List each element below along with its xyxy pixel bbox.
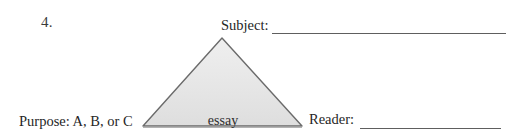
reader-fill-line[interactable] (360, 128, 501, 129)
triangle-shape (143, 38, 302, 126)
purpose-label: Purpose: A, B, or C (19, 112, 133, 130)
reader-label: Reader: (309, 110, 354, 128)
triangle-svg (133, 30, 313, 135)
essay-triangle-figure: 4. Subject: essay Purpose: A, B, or C Re… (0, 0, 523, 139)
essay-triangle: essay (133, 30, 313, 135)
item-number: 4. (41, 13, 53, 31)
